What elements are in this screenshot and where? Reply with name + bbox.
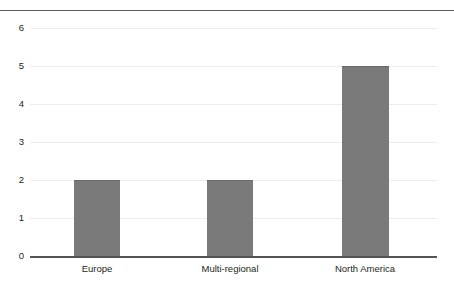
y-tick-label: 6 bbox=[2, 23, 24, 33]
bar-multi-regional bbox=[207, 180, 253, 256]
bar-chart: 6 5 4 3 2 1 0 Europe Multi-regional Nort… bbox=[0, 0, 454, 300]
gridline bbox=[30, 28, 437, 29]
top-divider-rule bbox=[0, 10, 454, 11]
y-tick-label: 1 bbox=[2, 213, 24, 223]
y-axis-tick-labels: 6 5 4 3 2 1 0 bbox=[0, 28, 24, 256]
y-tick-label: 3 bbox=[2, 137, 24, 147]
bar-north-america bbox=[342, 66, 389, 256]
x-tick-label-europe: Europe bbox=[82, 264, 113, 274]
bar-europe bbox=[74, 180, 120, 256]
x-tick-label-north-america: North America bbox=[335, 264, 395, 274]
y-tick-label: 0 bbox=[2, 251, 24, 261]
x-tick-label-multi-regional: Multi-regional bbox=[201, 264, 258, 274]
plot-area bbox=[30, 28, 437, 256]
x-axis-line bbox=[30, 256, 437, 258]
y-tick-label: 5 bbox=[2, 61, 24, 71]
y-tick-label: 4 bbox=[2, 99, 24, 109]
y-tick-label: 2 bbox=[2, 175, 24, 185]
